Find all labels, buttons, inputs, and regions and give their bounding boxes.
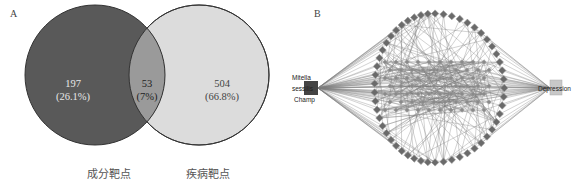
- target-node: [431, 159, 438, 166]
- target-node: [417, 11, 424, 18]
- target-node: [411, 155, 418, 162]
- target-node: [448, 12, 455, 19]
- network-diagram: Mitella sessilis Champ Depression: [290, 0, 576, 185]
- target-node: [471, 145, 478, 152]
- target-node: [373, 106, 380, 113]
- target-node: [405, 60, 410, 65]
- right-hub-label: Depression: [538, 85, 571, 93]
- venn-diagram: 197 (26.1%) 53 (7%) 504 (66.8%): [0, 0, 290, 185]
- left-set-label: 成分靶点: [87, 165, 131, 181]
- left-hub-label-line-3: Champ: [294, 96, 315, 104]
- target-node: [500, 93, 507, 100]
- left-set-percent: (26.1%): [56, 91, 91, 103]
- target-node: [431, 10, 438, 17]
- target-node: [440, 158, 447, 165]
- right-set-label: 疾病靶点: [186, 165, 230, 181]
- target-node: [398, 21, 405, 28]
- target-node: [398, 147, 405, 154]
- target-node: [456, 15, 463, 22]
- target-node: [464, 19, 471, 26]
- intersection-percent: (7%): [137, 91, 158, 103]
- intersection-count: 53: [142, 78, 153, 89]
- target-node: [379, 122, 386, 129]
- target-node: [456, 153, 463, 160]
- left-set-count: 197: [65, 78, 81, 89]
- left-hub-node: Mitella sessilis Champ: [292, 74, 318, 104]
- target-node: [449, 60, 454, 65]
- target-node: [417, 157, 424, 164]
- target-node: [404, 17, 411, 24]
- target-node: [411, 14, 418, 21]
- left-hub-label-line-2: sessilis: [292, 85, 314, 92]
- target-node: [483, 133, 490, 140]
- right-set-percent: (66.8%): [205, 91, 240, 103]
- right-set-count: 504: [214, 78, 231, 89]
- target-node: [387, 32, 394, 39]
- left-hub-label-line-1: Mitella: [292, 74, 311, 81]
- target-node: [499, 67, 506, 74]
